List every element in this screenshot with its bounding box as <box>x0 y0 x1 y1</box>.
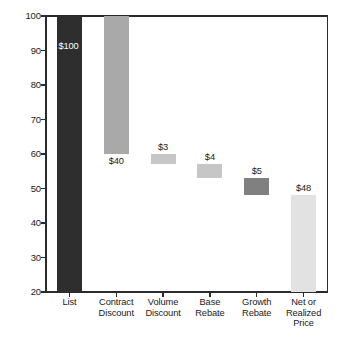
y-tick-label-80: 80 <box>15 80 41 90</box>
y-tick-90 <box>41 50 46 51</box>
x-label-list: List <box>46 297 93 308</box>
y-tick-70 <box>41 119 46 120</box>
y-tick-label-50: 50 <box>15 184 41 194</box>
waterfall-chart-figure: $100$40$3$4$5$48 2030405060708090100 Lis… <box>0 0 338 338</box>
y-tick-label-100: 100 <box>15 11 41 21</box>
x-label-contract-discount: Contract Discount <box>93 297 140 318</box>
figure-caption <box>18 329 326 338</box>
bar-growth-rebate[interactable] <box>244 178 269 195</box>
y-tick-60 <box>41 153 46 154</box>
x-label-base-rebate: Base Rebate <box>187 297 234 318</box>
y-tick-label-20: 20 <box>15 287 41 297</box>
y-tick-20 <box>41 291 46 292</box>
x-label-growth-rebate: Growth Rebate <box>233 297 280 318</box>
y-tick-50 <box>41 188 46 189</box>
y-tick-label-70: 70 <box>15 115 41 125</box>
value-label-list: $100 <box>58 42 97 51</box>
value-label-growth-rebate: $5 <box>237 167 277 176</box>
y-tick-label-30: 30 <box>15 253 41 263</box>
y-tick-80 <box>41 84 46 85</box>
bar-net-or-realized-price[interactable] <box>291 195 316 292</box>
value-label-net-or-realized-price: $48 <box>284 184 324 193</box>
x-label-net-or-realized-price: Net or Realized Price <box>280 297 327 329</box>
bar-contract-discount[interactable] <box>104 16 129 154</box>
bar-volume-discount[interactable] <box>151 154 176 164</box>
y-tick-label-60: 60 <box>15 149 41 159</box>
bar-base-rebate[interactable] <box>197 164 222 178</box>
y-tick-label-90: 90 <box>15 46 41 56</box>
y-tick-label-40: 40 <box>15 218 41 228</box>
y-tick-40 <box>41 222 46 223</box>
plot-area: $100$40$3$4$5$48 <box>46 16 327 292</box>
y-tick-100 <box>41 15 46 16</box>
y-tick-30 <box>41 257 46 258</box>
value-label-base-rebate: $4 <box>190 153 230 162</box>
x-label-volume-discount: Volume Discount <box>140 297 187 318</box>
value-label-volume-discount: $3 <box>143 143 183 152</box>
value-label-contract-discount: $40 <box>96 157 136 166</box>
bar-list[interactable] <box>57 16 82 292</box>
